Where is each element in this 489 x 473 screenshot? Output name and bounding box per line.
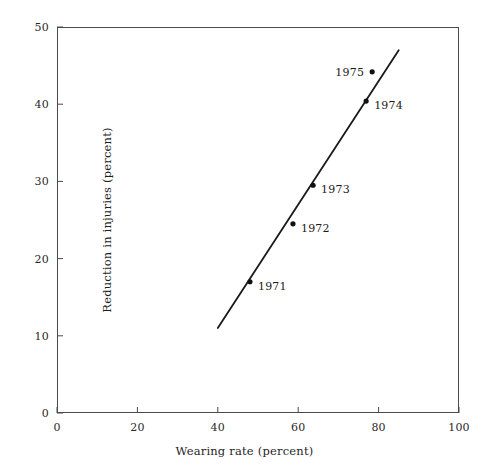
plot-frame (57, 27, 459, 413)
x-axis-title: Wearing rate (percent) (0, 444, 489, 458)
data-point-label-1973: 1973 (321, 183, 350, 196)
y-tick-label-40: 40 (23, 98, 49, 111)
y-axis-title: Reduction in injuries (percent) (100, 127, 114, 312)
data-point-label-1971: 1971 (258, 279, 287, 292)
data-point-label-1974: 1974 (374, 99, 403, 112)
x-tick-label-0: 0 (53, 421, 60, 434)
x-tick-label-60: 60 (291, 421, 305, 434)
x-tick-label-40: 40 (211, 421, 225, 434)
x-tick-label-80: 80 (371, 421, 385, 434)
y-tick-label-10: 10 (23, 329, 49, 342)
x-tick-label-100: 100 (448, 421, 470, 434)
x-tick-label-20: 20 (130, 421, 144, 434)
data-point-label-1972: 1972 (301, 221, 330, 234)
y-tick-label-50: 50 (23, 21, 49, 34)
y-tick-label-20: 20 (23, 252, 49, 265)
y-tick-label-0: 0 (23, 407, 49, 420)
data-point-label-1975: 1975 (335, 65, 364, 78)
scatter-chart-figure: 01020304050 020406080100 197119721973197… (0, 0, 489, 473)
y-tick-label-30: 30 (23, 175, 49, 188)
